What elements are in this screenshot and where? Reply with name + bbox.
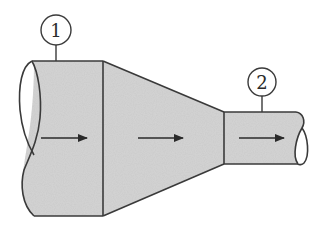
section-2-label: 2 (256, 72, 267, 93)
pipe-reducer-diagram: 1 2 (0, 0, 322, 233)
section-2-marker: 2 (248, 68, 276, 112)
section-1-label: 1 (50, 20, 61, 41)
section-1-marker: 1 (41, 15, 71, 61)
